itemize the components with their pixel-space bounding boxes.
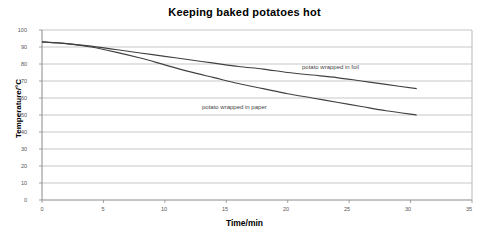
chart-container: Keeping baked potatoes hot Temperature/°… [0,0,489,242]
axis-ticks [39,30,472,203]
series-line-paper [42,42,417,115]
gridlines [42,30,472,183]
plot-area [0,0,489,242]
